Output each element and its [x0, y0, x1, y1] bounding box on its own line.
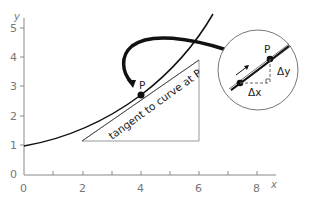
- point-p: [138, 92, 145, 99]
- delta-x-label: Δx: [248, 86, 261, 98]
- y-tick-5: 5: [10, 22, 17, 35]
- delta-y-label: Δy: [277, 65, 290, 77]
- x-tick-0: 0: [20, 182, 27, 195]
- inset-point-p-label: P: [264, 43, 270, 55]
- x-tick-8: 8: [253, 182, 260, 195]
- tangent-diagram: 5 4 3 2 1 0 0 2 4 6 8 x y P tangent to c…: [0, 0, 311, 200]
- point-p-label: P: [139, 79, 145, 91]
- y-tick-2: 2: [10, 110, 17, 123]
- x-axis-label: x: [270, 179, 277, 190]
- x-tick-4: 4: [137, 182, 144, 195]
- x-tick-6: 6: [195, 182, 202, 195]
- callout-arrow: [124, 38, 227, 82]
- y-tick-4: 4: [10, 51, 17, 64]
- tangent-line: [82, 60, 199, 141]
- arrowhead-icon: [127, 80, 136, 88]
- y-tick-0: 0: [10, 168, 17, 181]
- tangent-label: tangent to curve at P: [106, 66, 203, 141]
- y-axis-label: y: [13, 11, 21, 22]
- y-tick-1: 1: [10, 139, 17, 152]
- y-tick-3: 3: [10, 80, 17, 93]
- x-tick-2: 2: [79, 182, 86, 195]
